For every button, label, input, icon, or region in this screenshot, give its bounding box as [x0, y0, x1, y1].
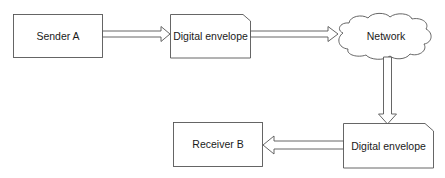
arrow-network-to-envelope: [379, 57, 397, 124]
arrow-envelope-to-receiver: [263, 136, 344, 154]
network-label: Network: [340, 16, 432, 56]
sender-label: Sender A: [13, 14, 103, 58]
arrow-sender-to-envelope: [103, 27, 171, 42]
envelope-label-1: Digital envelope: [170, 14, 251, 58]
envelope-label-2: Digital envelope: [343, 124, 434, 168]
receiver-label: Receiver B: [173, 122, 263, 166]
arrow-envelope-to-network: [251, 27, 339, 42]
